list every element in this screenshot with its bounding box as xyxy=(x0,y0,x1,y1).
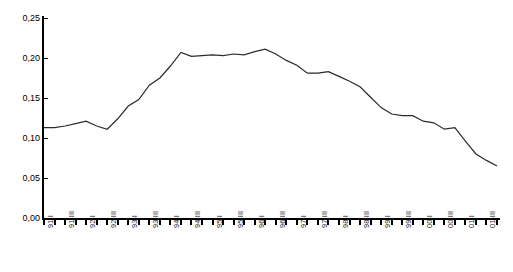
series-line-chart xyxy=(0,0,513,272)
series-line-path xyxy=(44,49,497,166)
plot-area: 0,250,200,150,100,050,00 91-I91-III92-I9… xyxy=(0,0,513,272)
chart-container: 0,250,200,150,100,050,00 91-I91-III92-I9… xyxy=(0,0,513,272)
